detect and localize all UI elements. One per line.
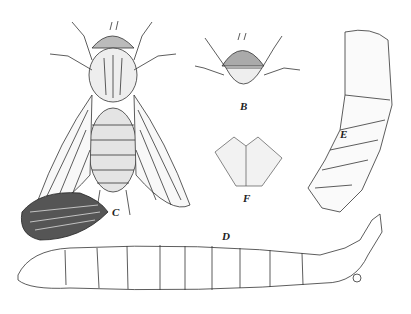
panel-label-c: C: [112, 206, 120, 218]
panel-label-e: E: [339, 128, 347, 140]
panel-label-d: D: [221, 230, 230, 242]
panel-c-egg-mass: [21, 193, 108, 240]
insect-illustration: A B F E C D: [0, 0, 411, 314]
panel-f-plate: [215, 137, 282, 186]
panel-a-adult-fly: [36, 21, 190, 215]
panel-label-b: B: [239, 100, 247, 112]
panel-e-pupa: [308, 30, 392, 212]
panel-b-head: [195, 33, 300, 84]
panel-label-f: F: [242, 192, 251, 204]
